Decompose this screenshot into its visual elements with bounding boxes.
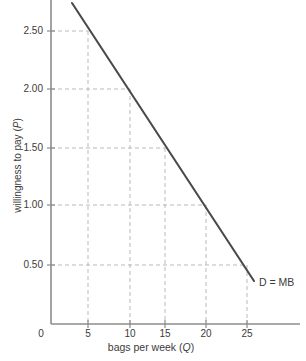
horizontal-gridlines [51,31,247,265]
x-tick-label-5: 5 [73,328,103,339]
demand-curve-label: D = MB [259,276,294,288]
y-axis-symbol: P [12,122,23,129]
y-tick-label-1.00: 1.00 [3,199,43,210]
x-tick-label-10: 10 [115,328,145,339]
y-tick-label-0.50: 0.50 [3,259,43,270]
x-tick-label-20: 20 [191,328,221,339]
chart-figure: 2.50 2.00 1.50 1.00 0.50 0 5 10 15 20 25… [0,0,306,361]
y-axis-title-text: willingness to pay [12,134,23,212]
y-axis-title: willingness to pay (P) [12,106,23,226]
x-axis-symbol: Q [183,341,191,353]
x-tick-label-0: 0 [26,328,56,339]
vertical-gridlines [88,31,247,324]
demand-curve [72,3,254,281]
y-tick-label-2.00: 2.00 [3,83,43,94]
x-axis-title-text: bags per week [108,341,176,353]
x-tick-label-15: 15 [150,328,180,339]
y-tick-label-2.50: 2.50 [3,25,43,36]
plot-area [0,0,306,361]
x-tick-label-25: 25 [232,328,262,339]
x-axis-title: bags per week (Q) [51,341,251,353]
y-tick-label-1.50: 1.50 [3,142,43,153]
